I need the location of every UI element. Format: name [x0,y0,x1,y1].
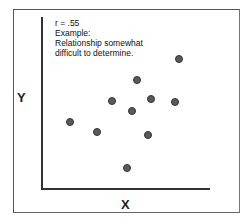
y-axis [41,17,43,190]
data-point [144,131,152,139]
x-axis-label: X [121,197,130,212]
data-point [147,95,155,103]
data-point [93,128,101,136]
annotation-line: Example: [55,28,143,38]
annotation-line: difficult to determine. [55,48,143,58]
data-point [171,98,179,106]
data-point [133,76,141,84]
data-point [128,107,136,115]
annotation-line: Relationship somewhat [55,38,143,48]
data-point [108,97,116,105]
data-point [123,164,131,172]
data-point [175,55,183,63]
y-axis-label: Y [17,90,26,105]
annotation: r = .55 Example: Relationship somewhat d… [55,18,143,58]
x-axis [41,188,210,190]
data-point [66,118,74,126]
correlation-value: r = .55 [55,18,143,28]
